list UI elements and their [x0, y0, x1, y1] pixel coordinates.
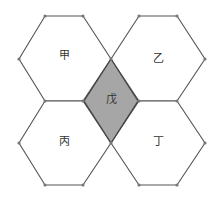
vertex-dot [17, 141, 20, 144]
hexagon-rhombus-figure: 甲乙丙丁戊 [0, 0, 220, 202]
vertex-dot [137, 99, 140, 102]
label-ding: 丁 [153, 135, 164, 148]
vertex-dot [109, 57, 112, 60]
vertex-dot [43, 14, 46, 17]
label-yi: 乙 [153, 52, 164, 65]
vertex-dot [203, 57, 206, 60]
vertex-dot [137, 183, 140, 186]
vertex-dot [43, 99, 46, 102]
label-bing: 丙 [59, 135, 70, 148]
vertex-dot [175, 99, 178, 102]
label-jia: 甲 [59, 49, 70, 62]
vertex-dot [203, 141, 206, 144]
vertex-dot [81, 183, 84, 186]
label-wu: 戊 [106, 93, 117, 106]
vertex-dot [175, 183, 178, 186]
vertex-dot [81, 99, 84, 102]
vertex-dot [43, 183, 46, 186]
diagram-canvas: 甲乙丙丁戊 [0, 0, 220, 202]
vertex-dot [17, 57, 20, 60]
vertex-dot [81, 14, 84, 17]
vertex-dot [175, 14, 178, 17]
vertex-dot [109, 141, 112, 144]
vertex-dot [137, 14, 140, 17]
